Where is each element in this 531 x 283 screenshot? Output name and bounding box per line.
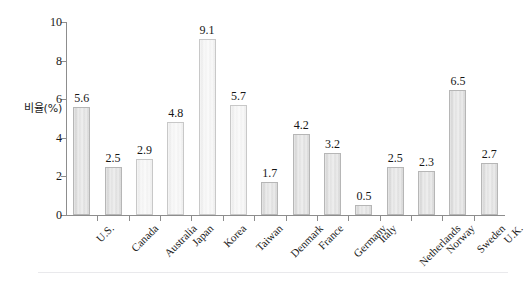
x-tick-mark: [254, 216, 255, 221]
x-category-label: U.S.: [93, 222, 115, 244]
bar: [355, 205, 372, 215]
x-category-label: Taiwan: [254, 222, 285, 253]
bar: [261, 182, 278, 215]
x-tick-mark: [97, 216, 98, 221]
bar: [449, 90, 466, 215]
bar: [230, 105, 247, 215]
x-tick-mark: [317, 216, 318, 221]
x-tick-mark: [223, 216, 224, 221]
bar-value-label: 0.5: [348, 189, 380, 203]
bar: [199, 39, 216, 215]
bar-value-label: 4.2: [285, 118, 317, 132]
y-tick-label: 2: [56, 168, 62, 184]
bar: [73, 107, 90, 215]
bar-value-label: 3.2: [317, 137, 349, 151]
bar-value-label: 4.8: [160, 106, 192, 120]
bar-value-label: 6.5: [442, 74, 474, 88]
bar: [136, 159, 153, 215]
bar: [387, 167, 404, 215]
bar-value-label: 2.9: [128, 143, 160, 157]
bar-value-label: 1.7: [254, 166, 286, 180]
bar-value-label: 9.1: [191, 23, 223, 37]
x-tick-mark: [442, 216, 443, 221]
y-tick-label: 6: [56, 91, 62, 107]
x-category-label: U.K.: [502, 222, 526, 246]
x-tick-mark: [129, 216, 130, 221]
bar-value-label: 2.5: [97, 151, 129, 165]
x-tick-mark: [286, 216, 287, 221]
y-tick-label: 8: [56, 53, 62, 69]
bar-value-label: 5.7: [222, 89, 254, 103]
x-tick-mark: [348, 216, 349, 221]
bar-value-label: 2.3: [411, 155, 443, 169]
bar-chart-figure: 비율(%) 0246810 5.62.52.94.89.15.71.74.23.…: [0, 0, 531, 283]
x-category-label: Canada: [129, 222, 161, 254]
bar: [324, 153, 341, 215]
bar: [105, 167, 122, 215]
bar-value-label: 2.5: [379, 151, 411, 165]
y-axis-spine: [66, 22, 67, 215]
x-tick-mark: [191, 216, 192, 221]
y-tick-label: 10: [50, 14, 62, 30]
y-tick-label: 4: [56, 130, 62, 146]
x-tick-mark: [411, 216, 412, 221]
bar: [167, 122, 184, 215]
y-axis-label: 비율(%): [14, 99, 62, 115]
plot-area: 0246810 5.62.52.94.89.15.71.74.23.20.52.…: [66, 22, 505, 215]
bar: [481, 163, 498, 215]
bottom-divider: [38, 272, 508, 273]
bar-value-label: 2.7: [473, 147, 505, 161]
x-tick-mark: [160, 216, 161, 221]
x-tick-mark: [380, 216, 381, 221]
x-tick-mark: [474, 216, 475, 221]
bar: [418, 171, 435, 215]
x-category-label: Korea: [221, 222, 248, 249]
bar-value-label: 5.6: [66, 91, 98, 105]
y-tick-label: 0: [56, 207, 62, 223]
bar: [293, 134, 310, 215]
